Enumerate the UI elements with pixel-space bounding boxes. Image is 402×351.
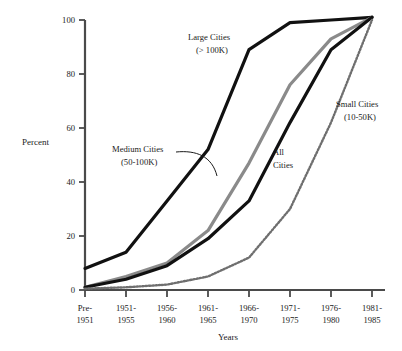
x-axis-tick-labels: Pre- 1951 1951- 1955 1956- 1960 1961- 19… xyxy=(76,303,382,325)
x-axis-title: Years xyxy=(218,332,239,342)
annotation-small-cities-line2: (10-50K) xyxy=(344,112,376,122)
annotation-medium-cities-line2: (50-100K) xyxy=(121,157,157,167)
x-tick-label-3-bottom: 1965 xyxy=(199,315,216,325)
annotation-medium-cities-line1: Medium Cities xyxy=(112,144,164,154)
x-tick-label-0-bottom: 1951 xyxy=(76,315,93,325)
annotation-large-cities: Large Cities (> 100K) xyxy=(188,32,231,55)
chart-page: 0 20 40 60 80 100 Percent Pre- 1951 1951… xyxy=(0,0,402,351)
x-tick-label-6-top: 1976- xyxy=(321,303,341,313)
y-tick-label-0: 0 xyxy=(71,285,75,295)
y-axis-tick-labels: 0 20 40 60 80 100 xyxy=(62,15,75,295)
x-tick-label-6-bottom: 1980 xyxy=(322,315,339,325)
annotation-small-cities-line1: Small Cities xyxy=(336,99,379,109)
x-tick-label-2-bottom: 1960 xyxy=(158,315,175,325)
y-tick-label-20: 20 xyxy=(66,231,75,241)
y-axis-title: Percent xyxy=(22,137,49,147)
x-tick-label-5-top: 1971- xyxy=(280,303,300,313)
x-tick-label-5-bottom: 1975 xyxy=(281,315,298,325)
y-tick-label-60: 60 xyxy=(66,123,75,133)
x-tick-label-1-top: 1951- xyxy=(116,303,136,313)
x-tick-label-7-bottom: 1985 xyxy=(363,315,380,325)
annotation-all-cities-line1: All xyxy=(273,147,285,157)
annotation-all-cities: All Cities xyxy=(273,147,294,170)
x-tick-label-7-top: 1981- xyxy=(362,303,382,313)
annotation-large-cities-line1: Large Cities xyxy=(188,32,231,42)
annotation-small-cities: Small Cities (10-50K) xyxy=(336,99,379,122)
annotation-medium-cities: Medium Cities (50-100K) xyxy=(112,144,164,167)
percent-by-years-line-chart: 0 20 40 60 80 100 Percent Pre- 1951 1951… xyxy=(0,0,402,351)
x-tick-label-3-top: 1961- xyxy=(198,303,218,313)
x-tick-label-1-bottom: 1955 xyxy=(117,315,134,325)
annotation-large-cities-line2: (> 100K) xyxy=(196,45,228,55)
x-tick-label-0-top: Pre- xyxy=(78,303,92,313)
x-tick-label-4-top: 1966- xyxy=(239,303,259,313)
x-tick-label-4-bottom: 1970 xyxy=(240,315,257,325)
x-tick-label-2-top: 1956- xyxy=(157,303,177,313)
annotation-all-cities-line2: Cities xyxy=(273,160,294,170)
y-tick-label-100: 100 xyxy=(62,15,75,25)
y-tick-label-80: 80 xyxy=(66,69,75,79)
y-tick-label-40: 40 xyxy=(66,177,75,187)
